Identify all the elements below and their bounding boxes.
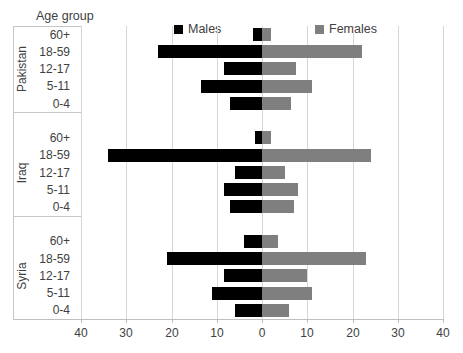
bar-males-iraq-0-4: [230, 200, 262, 213]
age-label-syria-60: 60+: [0, 234, 70, 248]
gridline-30: [126, 26, 127, 319]
bar-females-pakistan-18-59: [262, 45, 362, 58]
age-label-syria-18-59: 18-59: [0, 252, 70, 266]
bar-males-syria-18-59: [167, 252, 262, 265]
x-tick-label-1: 30: [111, 326, 141, 340]
bar-males-iraq-5-11: [224, 183, 262, 196]
gridline-20: [172, 26, 173, 319]
age-label-iraq-5-11: 5-11: [0, 183, 70, 197]
bar-females-pakistan-0-4: [262, 97, 291, 110]
age-label-iraq-18-59: 18-59: [0, 148, 70, 162]
age-label-pakistan-0-4: 0-4: [0, 97, 70, 111]
x-axis-line: [13, 319, 444, 320]
country-label-iraq: Iraq: [15, 133, 29, 213]
bar-females-iraq-60: [262, 131, 271, 144]
bar-males-syria-5-11: [212, 287, 262, 300]
bar-females-iraq-12-17: [262, 166, 285, 179]
bar-males-iraq-18-59: [108, 149, 262, 162]
group-separator: [13, 216, 81, 217]
bar-males-syria-60: [244, 235, 262, 248]
bar-males-pakistan-60: [253, 28, 262, 41]
gridline-20: [353, 26, 354, 319]
group-separator: [13, 112, 81, 113]
age-label-iraq-0-4: 0-4: [0, 200, 70, 214]
axis-title-age-group: Age group: [36, 9, 94, 23]
bar-males-iraq-12-17: [235, 166, 262, 179]
age-label-pakistan-18-59: 18-59: [0, 45, 70, 59]
bar-males-syria-12-17: [224, 269, 262, 282]
bar-males-pakistan-18-59: [158, 45, 262, 58]
population-pyramid-chart: Age group Males Females 4030201001020304…: [0, 0, 463, 353]
x-tick-label-7: 30: [383, 326, 413, 340]
x-tick-label-2: 20: [157, 326, 187, 340]
legend-item-males: Males: [174, 22, 221, 36]
x-tick-label-6: 20: [338, 326, 368, 340]
legend-item-females: Females: [315, 22, 377, 36]
age-label-pakistan-12-17: 12-17: [0, 62, 70, 76]
age-label-syria-5-11: 5-11: [0, 286, 70, 300]
bar-females-iraq-5-11: [262, 183, 298, 196]
gridline-40: [443, 26, 444, 319]
bar-males-pakistan-5-11: [201, 80, 262, 93]
bar-females-pakistan-12-17: [262, 62, 296, 75]
label-box-top-border: [13, 26, 81, 27]
bar-females-iraq-18-59: [262, 149, 371, 162]
x-tick-label-8: 40: [428, 326, 458, 340]
bar-females-iraq-0-4: [262, 200, 294, 213]
gridline-10: [217, 26, 218, 319]
x-tick-label-0: 40: [66, 326, 96, 340]
bar-females-pakistan-60: [262, 28, 271, 41]
males-swatch-icon: [174, 25, 183, 34]
age-label-pakistan-5-11: 5-11: [0, 79, 70, 93]
x-tick-label-4: 0: [247, 326, 277, 340]
country-label-syria: Syria: [15, 236, 29, 316]
gridline-30: [398, 26, 399, 319]
bar-females-syria-60: [262, 235, 278, 248]
age-label-pakistan-60: 60+: [0, 28, 70, 42]
bar-females-syria-12-17: [262, 269, 307, 282]
x-tick-label-3: 10: [202, 326, 232, 340]
females-swatch-icon: [315, 25, 324, 34]
bar-males-pakistan-12-17: [224, 62, 262, 75]
bar-females-pakistan-5-11: [262, 80, 312, 93]
age-label-iraq-12-17: 12-17: [0, 166, 70, 180]
gridline-40: [81, 26, 82, 319]
country-label-pakistan: Pakistan: [15, 29, 29, 109]
bar-females-syria-5-11: [262, 287, 312, 300]
bar-males-syria-0-4: [235, 304, 262, 317]
age-label-iraq-60: 60+: [0, 131, 70, 145]
age-label-syria-0-4: 0-4: [0, 303, 70, 317]
bar-males-iraq-60: [255, 131, 262, 144]
bar-females-syria-18-59: [262, 252, 366, 265]
bar-males-pakistan-0-4: [230, 97, 262, 110]
age-label-syria-12-17: 12-17: [0, 269, 70, 283]
x-tick-label-5: 10: [292, 326, 322, 340]
bar-females-syria-0-4: [262, 304, 289, 317]
